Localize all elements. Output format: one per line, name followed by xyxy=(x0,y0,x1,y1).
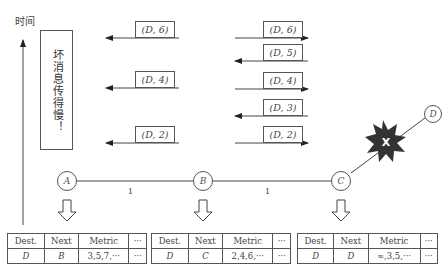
bad-news-note: 坏消息传得慢！ xyxy=(40,30,73,150)
message-b-3: (D, 4) xyxy=(263,72,303,89)
cell-dest: D xyxy=(8,249,45,264)
header-more: ··· xyxy=(129,234,147,249)
message-b-2: (D, 5) xyxy=(263,44,303,61)
bad-news-text: 坏消息传得慢！ xyxy=(49,49,65,133)
message-a-1: (D, 6) xyxy=(135,21,175,38)
cell-more: ··· xyxy=(420,249,437,264)
routing-table-a: Dest. Next Metric ··· D B 3,5,7,··· ··· xyxy=(7,233,147,264)
message-b-5: (D, 2) xyxy=(263,126,303,143)
cell-next: C xyxy=(188,249,222,264)
link-broken-icon: X xyxy=(365,120,406,162)
header-dest: Dest. xyxy=(152,234,189,249)
cell-metric: ∞,3,5,··· xyxy=(368,249,420,264)
cell-more: ··· xyxy=(273,249,291,264)
routing-table-c: Dest. Next Metric ··· D D ∞,3,5,··· ··· xyxy=(297,233,438,264)
header-more: ··· xyxy=(273,234,291,249)
node-c: C xyxy=(331,171,351,191)
cell-metric: 2,4,6,··· xyxy=(223,249,273,264)
svg-text:X: X xyxy=(382,136,391,149)
message-b-4: (D, 3) xyxy=(263,99,303,116)
message-a-2: (D, 4) xyxy=(135,71,175,88)
node-b: B xyxy=(193,171,213,191)
cell-more: ··· xyxy=(129,249,147,264)
header-dest: Dest. xyxy=(298,234,334,249)
link-weight-ab: 1 xyxy=(128,187,133,196)
message-b-1: (D, 6) xyxy=(263,21,303,38)
cell-next: D xyxy=(334,249,368,264)
node-a: A xyxy=(57,171,77,191)
cell-metric: 3,5,7,··· xyxy=(79,249,129,264)
message-a-3: (D, 2) xyxy=(135,126,175,143)
header-metric: Metric xyxy=(223,234,273,249)
cell-dest: D xyxy=(298,249,334,264)
header-metric: Metric xyxy=(79,234,129,249)
link-weight-bc: 1 xyxy=(265,187,270,196)
cell-dest: D xyxy=(152,249,189,264)
header-next: Next xyxy=(44,234,78,249)
cell-next: B xyxy=(44,249,78,264)
header-next: Next xyxy=(334,234,368,249)
node-d: D xyxy=(424,105,442,123)
header-dest: Dest. xyxy=(8,234,45,249)
header-more: ··· xyxy=(420,234,437,249)
routing-table-b: Dest. Next Metric ··· D C 2,4,6,··· ··· xyxy=(151,233,291,264)
header-next: Next xyxy=(188,234,222,249)
header-metric: Metric xyxy=(368,234,420,249)
